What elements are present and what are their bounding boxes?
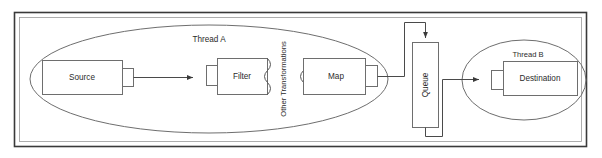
group-thread-b-label: Thread B [512, 50, 543, 59]
group-thread-a-label: Thread A [192, 35, 226, 44]
node-source-label: Source [69, 73, 95, 82]
node-destination-input-port[interactable] [492, 71, 504, 90]
node-filter-label: Filter [233, 72, 251, 81]
node-destination-label: Destination [520, 74, 561, 83]
node-map-output-port[interactable] [366, 66, 378, 87]
node-map-label: Map [328, 72, 344, 81]
annotation-other-transformations: Other Transformations [279, 41, 288, 117]
node-filter-input-port[interactable] [207, 66, 218, 86]
diagram-canvas: Thread A Thread B Source Filter Other Tr… [0, 0, 602, 158]
node-queue-label: Queue [421, 72, 430, 97]
node-source-output-port[interactable] [123, 69, 134, 87]
dataflow-diagram: Thread A Thread B Source Filter Other Tr… [0, 0, 602, 158]
